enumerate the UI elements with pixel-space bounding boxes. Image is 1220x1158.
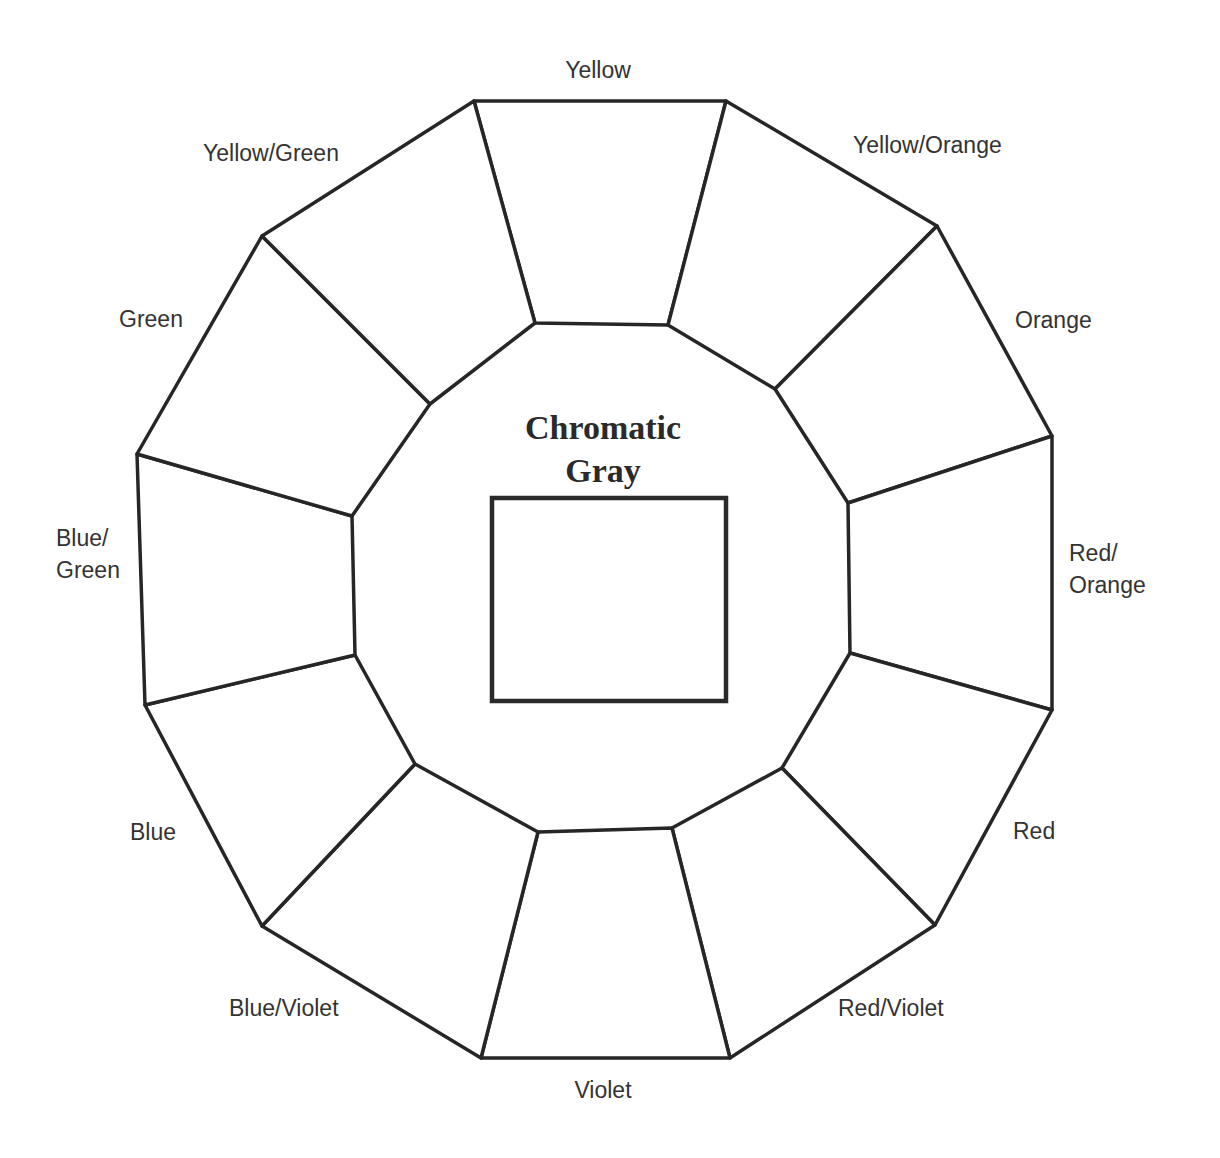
center-title-line1: Chromatic bbox=[525, 409, 681, 446]
label-blue: Blue bbox=[130, 819, 176, 845]
label-red-violet: Red/Violet bbox=[838, 995, 944, 1021]
label-violet: Violet bbox=[574, 1077, 632, 1103]
center-title-line2: Gray bbox=[565, 452, 641, 489]
chromatic-gray-swatch bbox=[492, 498, 726, 701]
label-red-orange-line2: Orange bbox=[1069, 572, 1146, 598]
label-blue-green-line2: Green bbox=[56, 557, 120, 583]
label-yellow-green: Yellow/Green bbox=[203, 140, 339, 166]
label-orange: Orange bbox=[1015, 307, 1092, 333]
label-yellow: Yellow bbox=[565, 57, 631, 83]
color-wheel-diagram: Chromatic Gray Yellow Yellow/Orange Oran… bbox=[0, 0, 1220, 1158]
label-blue-violet: Blue/Violet bbox=[229, 995, 339, 1021]
label-red: Red bbox=[1013, 818, 1055, 844]
label-yellow-orange: Yellow/Orange bbox=[853, 132, 1002, 158]
label-red-orange-line1: Red/ bbox=[1069, 540, 1118, 566]
label-blue-green-line1: Blue/ bbox=[56, 525, 109, 551]
label-green: Green bbox=[119, 306, 183, 332]
